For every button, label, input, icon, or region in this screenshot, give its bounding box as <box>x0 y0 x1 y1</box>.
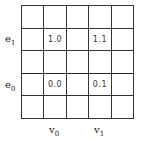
grid-cell <box>44 51 66 74</box>
grid-cell-value: 0.0 <box>44 74 66 97</box>
grid-cell <box>22 29 44 52</box>
grid-cell <box>67 74 89 97</box>
col-label-sub: 0 <box>55 130 59 138</box>
col-label-v1: v1 <box>94 124 104 138</box>
grid-cell <box>67 51 89 74</box>
grid-cell <box>22 74 44 97</box>
grid-cell <box>44 96 66 119</box>
grid-cell-value: 1.0 <box>44 29 66 52</box>
col-label-v0: v0 <box>49 124 59 138</box>
row-label-e1: e1 <box>5 33 15 47</box>
grid-cell <box>89 96 111 119</box>
grid-cell <box>112 6 134 29</box>
grid: 1.0 1.1 0.0 0.1 <box>21 5 134 119</box>
grid-cell <box>112 74 134 97</box>
row-label-sub: 1 <box>11 39 15 47</box>
grid-cell <box>89 51 111 74</box>
grid-cell <box>89 6 111 29</box>
grid-cell <box>22 96 44 119</box>
grid-cell <box>22 51 44 74</box>
grid-cell-value: 0.1 <box>89 74 111 97</box>
grid-cell <box>112 51 134 74</box>
grid-cell <box>67 29 89 52</box>
grid-cell <box>44 6 66 29</box>
grid-cell <box>67 96 89 119</box>
grid-cell <box>22 6 44 29</box>
grid-cell-value: 1.1 <box>89 29 111 52</box>
col-label-sub: 1 <box>100 130 104 138</box>
grid-cell <box>67 6 89 29</box>
grid-cell <box>112 96 134 119</box>
grid-cell <box>112 29 134 52</box>
row-label-sub: 0 <box>11 85 15 93</box>
row-label-e0: e0 <box>5 79 15 93</box>
